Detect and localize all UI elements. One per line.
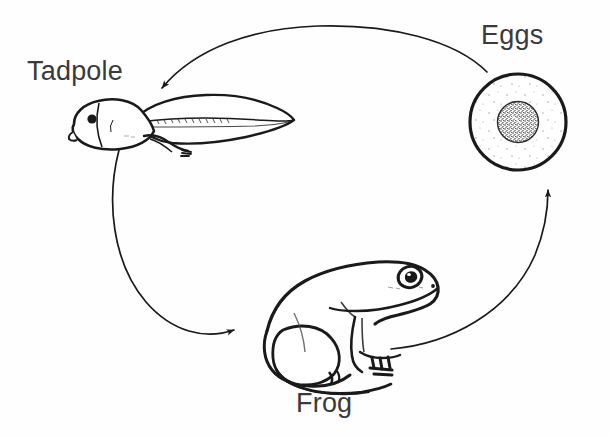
frog-illustration [264, 262, 438, 394]
frog-toes [370, 357, 392, 375]
tadpole-eye [87, 114, 96, 123]
tadpole-toes [181, 150, 191, 156]
tadpole-body [73, 99, 154, 149]
stage-label-eggs: Eggs [481, 22, 543, 49]
arrow-eggs-to-tadpole [162, 26, 487, 88]
arrow-tadpole-to-frog [113, 150, 234, 334]
stage-label-tadpole: Tadpole [27, 58, 123, 85]
stage-label-frog: Frog [296, 390, 352, 417]
frog-front-leg [351, 317, 362, 372]
frog-life-cycle-diagram: Tadpole Eggs Frog [0, 0, 610, 437]
tadpole-illustration [69, 95, 294, 156]
frog-thigh [273, 326, 340, 385]
frog-egg-illustration [470, 74, 566, 170]
frog-nostril [431, 284, 435, 288]
egg-yolk-nucleus [498, 102, 539, 143]
